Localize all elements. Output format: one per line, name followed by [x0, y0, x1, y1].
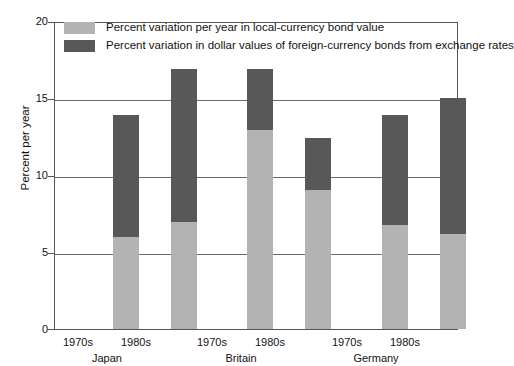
y-tick-label-10: 10 [6, 170, 48, 181]
bar-segment-fx-germany-1980s [440, 98, 466, 234]
legend-item-local: Percent variation per year in local-curr… [64, 20, 456, 35]
bar-britain-1980s [305, 138, 331, 329]
bar-segment-local-germany-1980s [440, 234, 466, 329]
bar-germany-1980s [440, 98, 466, 329]
bar-japan-1980s [171, 69, 197, 329]
bar-segment-local-japan-1980s [171, 222, 197, 329]
legend-item-fx: Percent variation in dollar values of fo… [64, 38, 456, 53]
bar-segment-local-britain-1970s [247, 130, 273, 329]
bar-segment-fx-japan-1980s [171, 69, 197, 222]
legend-label-fx: Percent variation in dollar values of fo… [106, 39, 514, 52]
bar-segment-fx-germany-1970s [382, 115, 408, 225]
x-tick-label-britain-1970s: 1970s [182, 336, 242, 348]
bar-segment-local-britain-1980s [305, 190, 331, 329]
bar-germany-1970s [382, 115, 408, 329]
bar-segment-fx-japan-1970s [113, 115, 139, 237]
bar-segment-fx-britain-1970s [247, 69, 273, 130]
x-tick-label-japan-1970s: 1970s [48, 336, 108, 348]
bar-japan-1970s [113, 115, 139, 329]
legend: Percent variation per year in local-curr… [64, 20, 456, 56]
y-tick-label-20: 20 [6, 16, 48, 27]
group-label-germany: Germany [346, 352, 406, 364]
group-label-japan: Japan [77, 352, 137, 364]
x-tick-label-japan-1980s: 1980s [106, 336, 166, 348]
y-tick-label-5: 5 [6, 247, 48, 258]
y-tick-label-15: 15 [6, 93, 48, 104]
group-label-britain: Britain [211, 352, 271, 364]
x-tick-label-germany-1970s: 1970s [317, 336, 377, 348]
x-tick-label-germany-1980s: 1980s [375, 336, 435, 348]
legend-label-local: Percent variation per year in local-curr… [106, 21, 384, 34]
x-tick-label-britain-1980s: 1980s [240, 336, 300, 348]
bar-segment-local-japan-1970s [113, 237, 139, 329]
bar-segment-fx-britain-1980s [305, 138, 331, 190]
legend-swatch-local-icon [64, 22, 95, 34]
bar-segment-local-germany-1970s [382, 225, 408, 329]
y-tick-label-0: 0 [6, 324, 48, 335]
plot-area [54, 22, 458, 330]
bar-britain-1970s [247, 69, 273, 329]
legend-swatch-fx-icon [64, 40, 95, 52]
